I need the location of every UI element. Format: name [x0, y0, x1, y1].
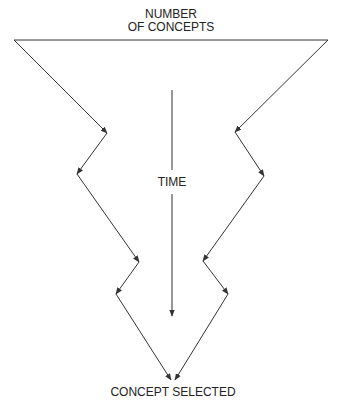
- funnel-segment-arrow: [77, 174, 139, 262]
- title-line-2: OF CONCEPTS: [111, 21, 231, 34]
- funnel-graphic: [0, 0, 342, 415]
- funnel-segment-arrow: [203, 261, 228, 294]
- funnel-segment-arrow: [203, 176, 264, 261]
- funnel-segment-arrow: [77, 133, 107, 174]
- funnel-segment-arrow: [235, 132, 264, 176]
- funnel-segment-arrow: [116, 294, 171, 380]
- left-funnel-path: [14, 40, 171, 380]
- funnel-segment-arrow: [235, 40, 328, 132]
- funnel-segment-arrow: [116, 262, 139, 294]
- funnel-segment-arrow: [14, 40, 107, 133]
- concept-selected-label: CONCEPT SELECTED: [91, 386, 255, 399]
- concept-funnel-diagram: NUMBER OF CONCEPTS TIME CONCEPT SELECTED: [0, 0, 342, 415]
- number-of-concepts-label: NUMBER OF CONCEPTS: [111, 8, 231, 34]
- right-funnel-path: [175, 40, 328, 380]
- time-label: TIME: [150, 176, 194, 189]
- funnel-segment-arrow: [175, 294, 228, 380]
